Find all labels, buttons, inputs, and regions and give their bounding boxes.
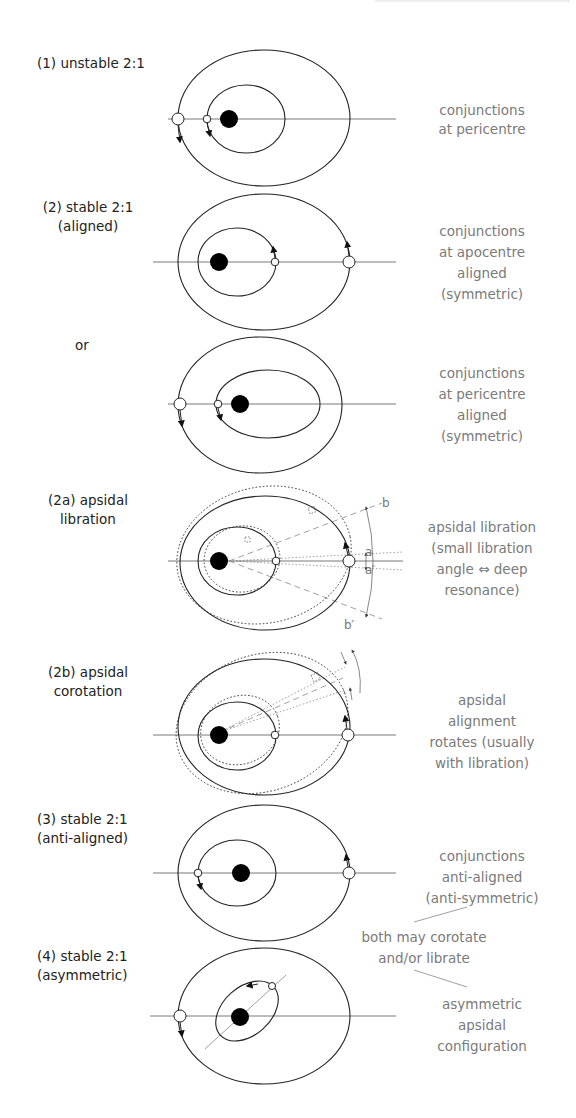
outer-orbit [178,337,342,473]
angle-label-a-prime: a′ [365,563,375,577]
panel-description: apsidal libration [428,519,536,535]
panel-3-stable-anti-aligned: (3) stable 2:1 (anti-aligned) conjunctio… [37,805,538,941]
panel-label: (1) unstable 2:1 [37,55,145,71]
panel-description: asymmetric [442,996,522,1012]
panel-label: (asymmetric) [37,967,127,983]
libration-limit-b [229,503,382,561]
panel-description: configuration [437,1038,527,1054]
panel-description: alignment [448,713,516,729]
panel-description: conjunctions [439,365,524,381]
panel-2b-apsidal-corotation: (2b) apsidal corotation apsidal alignmen… [48,629,535,817]
panel-label: or [75,337,89,353]
panel-label: libration [60,511,116,527]
panel-description: aligned [457,265,507,281]
panel-label: (2a) apsidal [48,492,128,508]
central-star [231,395,249,413]
panel-label: (anti-aligned) [37,830,128,846]
panel-2-alternative: or conjunctions at pericentre aligned (s… [75,337,525,473]
panel-label: (4) stable 2:1 [37,948,128,964]
panel-description: (anti-symmetric) [426,890,539,906]
central-star [231,1008,249,1026]
rotated-inner-orbit [191,684,289,775]
inner-planet [214,400,222,408]
panel-description: resonance) [444,582,519,598]
panel-description: at pericentre [438,386,525,402]
panel-description: at apocentre [439,244,525,260]
inner-direction-arrow [207,123,210,136]
shared-note: both may corotate and/or librate [361,907,486,987]
shared-note-text: both may corotate [361,929,486,945]
inner-planet [272,557,280,565]
inner-planet [203,115,211,123]
inner-orbit [198,702,276,770]
panel-description: angle ⇔ deep [436,561,527,577]
width-marker-lower [350,688,352,700]
rotation-limit-lower [220,690,345,732]
inner-planet [194,869,202,877]
panel-2a-apsidal-libration: (2a) apsidal libration b a a′ b′ apsidal… [48,470,536,640]
panel-description: anti-aligned [442,869,523,885]
ghost-inner-planet [245,537,250,542]
inner-direction-arrow [247,984,258,986]
panel-description: at pericentre [438,121,525,137]
panel-description: (symmetric) [441,286,523,302]
panel-description: conjunctions [439,848,524,864]
panel-label: (2b) apsidal [48,664,128,680]
libration-angle-arc-b [366,507,373,617]
panel-description: apsidal [458,1017,506,1033]
inner-planet [271,731,279,739]
panel-1-unstable: (1) unstable 2:1 conjunctions at pericen… [37,50,526,186]
outer-planet [343,867,355,879]
inner-planet [271,258,279,266]
resonance-diagram: (1) unstable 2:1 conjunctions at pericen… [0,0,576,1118]
angle-label-b-prime: b′ [344,618,355,632]
width-marker-upper [341,652,346,664]
central-star [232,864,250,882]
libration-limit-b-prime [229,561,382,619]
central-star [210,552,228,570]
central-star [220,110,238,128]
outer-planet [174,1010,186,1022]
connector-to-panel-4 [414,970,467,987]
panel-label: corotation [54,683,123,699]
panel-description: (symmetric) [441,428,523,444]
panel-2-stable-aligned: (2) stable 2:1 (aligned) conjunctions at… [43,194,525,330]
panel-label: (3) stable 2:1 [37,811,128,827]
panel-description: conjunctions [439,223,524,239]
panel-description: (small libration [431,540,532,556]
outer-planet [172,113,184,125]
shared-note-text: and/or librate [378,950,470,966]
libration-limit-a-prime [229,561,403,570]
panel-4-stable-asymmetric: (4) stable 2:1 (asymmetric) asymmetric a… [37,948,527,1084]
panel-label: (aligned) [58,218,118,234]
panel-description: aligned [457,407,507,423]
outer-planet [343,555,355,567]
panel-description: rotates (usually [429,734,534,750]
rotated-apsidal-line [220,678,343,732]
central-star [210,726,228,744]
corotation-arrow [352,650,360,693]
outer-planet [343,256,355,268]
angle-label-a: a [365,545,372,559]
angle-label-b: b [382,496,390,510]
panel-description: apsidal [458,692,506,708]
central-star [210,253,228,271]
connector-to-panel-3 [414,907,467,922]
libration-limit-a [229,552,403,561]
rotation-limit-upper [220,667,345,732]
outer-planet [174,398,186,410]
inner-planet [269,983,276,990]
outer-planet [342,729,354,741]
panel-description: conjunctions [439,102,524,118]
panel-description: with libration) [435,755,529,771]
inner-direction-arrow [198,877,201,889]
rotated-outer-orbit [156,629,368,817]
panel-label: (2) stable 2:1 [43,199,134,215]
